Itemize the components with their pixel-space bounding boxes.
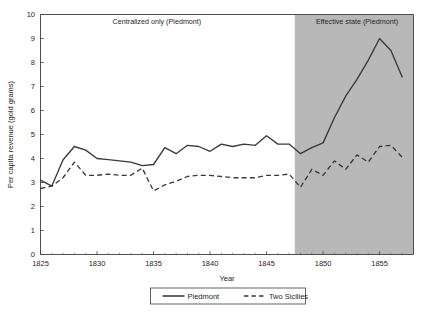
y-tick-label: 2 [31,202,35,211]
y-tick-label: 1 [31,226,35,235]
y-tick-label: 6 [31,106,35,115]
y-tick-label: 9 [31,34,35,43]
chart-figure: 0123456789101825183018351840184518501855… [0,0,433,317]
period-annotations-layer: Centralized only (Piedmont)Effective sta… [113,17,398,26]
y-tick-label: 8 [31,58,35,67]
revenue-line-chart: 0123456789101825183018351840184518501855… [0,0,433,317]
y-tick-label: 3 [31,178,35,187]
effective-state-shading [295,15,414,255]
x-tick-label: 1835 [145,259,162,268]
y-tick-label: 5 [31,130,35,139]
y-tick-label: 7 [31,82,35,91]
x-tick-label: 1855 [371,259,388,268]
x-tick-label: 1830 [89,259,106,268]
y-axis-title: Per capita revenue (gold grams) [6,80,15,188]
legend-label-piedmont: Piedmont [188,292,221,301]
centralized-only-label: Centralized only (Piedmont) [113,17,202,26]
effective-state-label: Effective state (Piedmont) [316,17,398,26]
x-tick-label: 1840 [202,259,219,268]
y-tick-label: 4 [31,154,35,163]
x-tick-label: 1850 [315,259,332,268]
legend-label-two-sicilies: Two Sicilies [269,292,308,301]
x-axis-title: Year [219,274,235,283]
chart-legend: PiedmontTwo Sicilies [151,288,309,304]
shaded-region-layer [295,15,414,255]
x-tick-label: 1845 [258,259,275,268]
y-tick-label: 10 [27,10,35,19]
x-tick-label: 1825 [32,259,49,268]
